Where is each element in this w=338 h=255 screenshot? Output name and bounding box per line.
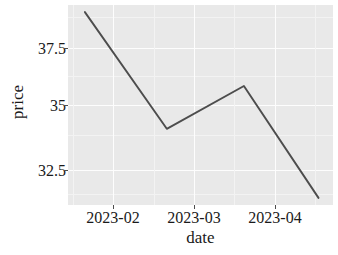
y-tick-label-32-5: 32.5 <box>6 163 66 179</box>
x-axis-title: date <box>68 228 333 247</box>
y-tick-label-35: 35 <box>6 98 66 114</box>
x-tick-label-2023-04: 2023-04 <box>220 209 330 226</box>
line-chart: price 37.5 35 32.5 2023-02 2023-0 <box>0 0 338 255</box>
series-line-price <box>68 5 333 205</box>
y-tick-label-37-5: 37.5 <box>6 41 66 57</box>
plot-panel <box>68 5 333 205</box>
